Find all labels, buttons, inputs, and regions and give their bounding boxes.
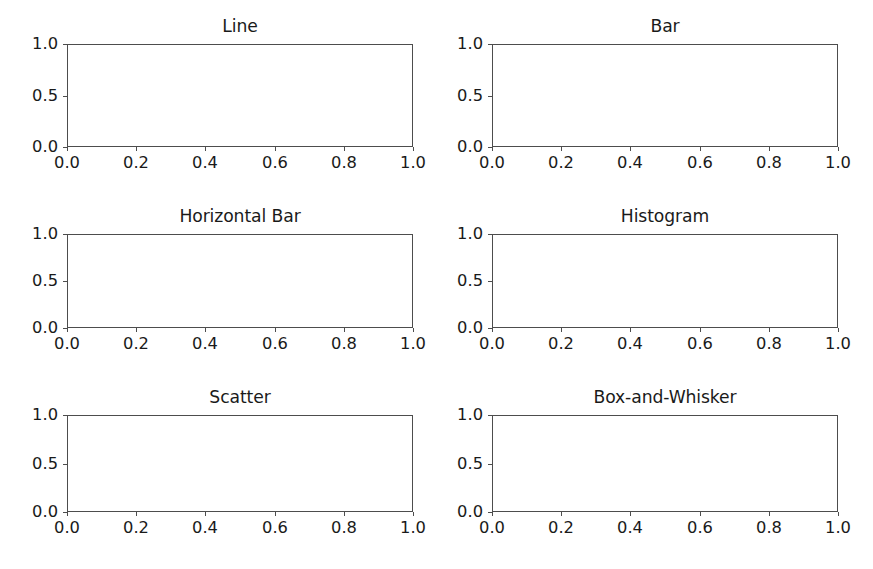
axes-title: Scatter — [67, 389, 413, 406]
y-tick-mark — [63, 44, 67, 45]
x-tick-mark — [630, 512, 631, 516]
y-tick-mark — [488, 512, 492, 513]
x-tick-label: 0.4 — [617, 155, 643, 171]
x-tick-label: 0.2 — [123, 155, 149, 171]
y-tick-label: 0.0 — [32, 320, 58, 336]
x-tick-label: 0.0 — [479, 155, 505, 171]
x-tick-label: 0.8 — [331, 336, 357, 352]
x-tick-mark — [561, 147, 562, 151]
x-tick-mark — [344, 147, 345, 151]
x-tick-mark — [769, 147, 770, 151]
x-tick-mark — [838, 147, 839, 151]
x-tick-mark — [205, 328, 206, 332]
axes-box — [492, 234, 838, 328]
axes-box — [67, 44, 413, 147]
x-tick-mark — [630, 147, 631, 151]
y-tick-label: 0.5 — [32, 456, 58, 472]
x-tick-mark — [700, 512, 701, 516]
y-tick-mark — [488, 147, 492, 148]
x-tick-label: 0.6 — [687, 155, 713, 171]
x-tick-label: 0.0 — [54, 155, 80, 171]
y-tick-label: 0.5 — [32, 273, 58, 289]
x-tick-label: 0.0 — [54, 520, 80, 536]
x-tick-label: 0.8 — [756, 155, 782, 171]
x-tick-label: 0.2 — [123, 336, 149, 352]
x-tick-mark — [492, 512, 493, 516]
y-tick-mark — [63, 281, 67, 282]
x-tick-mark — [561, 328, 562, 332]
axes-title: Bar — [492, 18, 838, 35]
axes-box — [492, 415, 838, 512]
x-tick-label: 1.0 — [400, 155, 426, 171]
x-tick-mark — [136, 328, 137, 332]
y-tick-mark — [63, 512, 67, 513]
axes-title: Horizontal Bar — [67, 208, 413, 225]
x-tick-label: 0.6 — [262, 520, 288, 536]
x-tick-label: 0.0 — [54, 336, 80, 352]
x-tick-label: 0.4 — [617, 336, 643, 352]
x-tick-mark — [67, 328, 68, 332]
x-tick-mark — [630, 328, 631, 332]
x-tick-label: 1.0 — [825, 336, 851, 352]
y-tick-label: 1.0 — [457, 226, 483, 242]
x-tick-label: 0.0 — [479, 336, 505, 352]
x-tick-label: 0.4 — [192, 155, 218, 171]
x-tick-label: 0.4 — [192, 520, 218, 536]
y-tick-label: 0.5 — [457, 273, 483, 289]
x-tick-label: 0.2 — [548, 520, 574, 536]
y-tick-mark — [488, 234, 492, 235]
subplot-bar: Bar0.00.20.40.60.81.00.00.51.0 — [492, 44, 838, 147]
x-tick-mark — [344, 328, 345, 332]
y-tick-mark — [488, 96, 492, 97]
y-tick-mark — [63, 96, 67, 97]
y-tick-label: 1.0 — [457, 36, 483, 52]
x-tick-label: 1.0 — [400, 520, 426, 536]
subplot-line: Line0.00.20.40.60.81.00.00.51.0 — [67, 44, 413, 147]
x-tick-mark — [838, 512, 839, 516]
x-tick-label: 0.8 — [331, 520, 357, 536]
x-tick-mark — [67, 512, 68, 516]
subplot-barh: Horizontal Bar0.00.20.40.60.81.00.00.51.… — [67, 234, 413, 328]
y-tick-label: 0.0 — [457, 320, 483, 336]
x-tick-mark — [205, 512, 206, 516]
figure-canvas: Line0.00.20.40.60.81.00.00.51.0Bar0.00.2… — [0, 0, 873, 569]
x-tick-label: 0.8 — [756, 520, 782, 536]
y-tick-label: 0.0 — [32, 504, 58, 520]
y-tick-mark — [63, 415, 67, 416]
y-tick-mark — [63, 328, 67, 329]
y-tick-label: 0.5 — [457, 88, 483, 104]
x-tick-label: 1.0 — [825, 155, 851, 171]
y-tick-mark — [63, 234, 67, 235]
y-tick-mark — [488, 415, 492, 416]
y-tick-label: 0.0 — [32, 139, 58, 155]
x-tick-mark — [413, 147, 414, 151]
axes-box — [67, 415, 413, 512]
axes-box — [67, 234, 413, 328]
x-tick-mark — [700, 328, 701, 332]
x-tick-label: 0.8 — [331, 155, 357, 171]
x-tick-mark — [769, 328, 770, 332]
x-tick-mark — [344, 512, 345, 516]
y-tick-label: 0.0 — [457, 504, 483, 520]
subplot-histogram: Histogram0.00.20.40.60.81.00.00.51.0 — [492, 234, 838, 328]
y-tick-label: 0.5 — [457, 456, 483, 472]
x-tick-mark — [838, 328, 839, 332]
x-tick-label: 0.2 — [548, 155, 574, 171]
x-tick-label: 0.6 — [687, 520, 713, 536]
x-tick-mark — [413, 512, 414, 516]
x-tick-mark — [205, 147, 206, 151]
y-tick-mark — [488, 44, 492, 45]
x-tick-mark — [700, 147, 701, 151]
x-tick-label: 0.6 — [262, 155, 288, 171]
y-tick-label: 0.5 — [32, 88, 58, 104]
axes-title: Line — [67, 18, 413, 35]
x-tick-label: 0.4 — [617, 520, 643, 536]
x-tick-label: 0.6 — [687, 336, 713, 352]
y-tick-label: 1.0 — [32, 407, 58, 423]
x-tick-mark — [136, 147, 137, 151]
x-tick-mark — [275, 512, 276, 516]
x-tick-mark — [561, 512, 562, 516]
x-tick-mark — [769, 512, 770, 516]
y-tick-mark — [488, 328, 492, 329]
subplot-scatter: Scatter0.00.20.40.60.81.00.00.51.0 — [67, 415, 413, 512]
